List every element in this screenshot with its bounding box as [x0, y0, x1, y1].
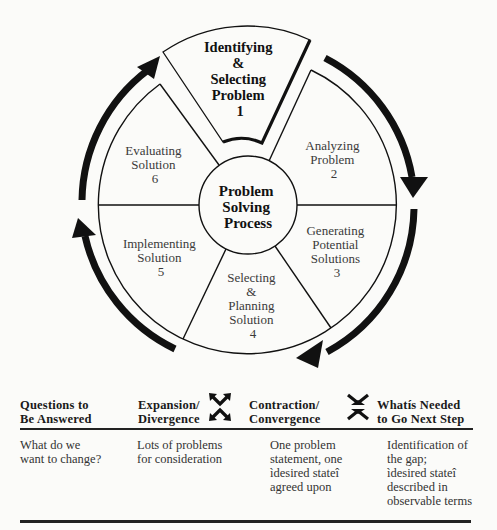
cell-line: for consideration [137, 452, 222, 466]
arrowhead-right-down [400, 177, 428, 198]
header-contraction: Contraction/ Convergence [249, 398, 321, 426]
header-line: Divergence [138, 412, 200, 426]
summary-table: Questions to Be Answered Expansion/ Dive… [20, 380, 473, 530]
arrowhead-left-up [72, 218, 96, 238]
cell-line: Lots of problems [137, 438, 222, 452]
header-line: Questions to [20, 398, 92, 412]
cell-line: ìdesired stateî [270, 466, 342, 480]
segment-6-label: Evaluating Solution 6 [125, 143, 185, 186]
cell-expansion: Lots of problems for consideration [137, 438, 222, 466]
center-label: Problem Solving Process [219, 183, 277, 231]
cell-line: One problem [270, 438, 342, 452]
cell-contraction: One problem statement, one ìdesired stat… [270, 438, 342, 494]
bottom-rule [20, 520, 471, 523]
divider-4-5 [183, 249, 226, 339]
segment-5-label: Implementing Solution 5 [123, 236, 199, 279]
cell-line: agreed upon [270, 480, 342, 494]
cell-line: described in [387, 480, 472, 494]
segment-4-label: Selecting & Planning Solution 4 [227, 270, 279, 341]
expand-arrows-icon [208, 392, 232, 422]
header-line: to Go Next Step [377, 412, 464, 426]
problem-solving-cycle-diagram: Identifying & Selecting Problem 1 Analyz… [0, 0, 497, 380]
cell-line: statement, one [270, 452, 342, 466]
header-divider [20, 428, 473, 430]
cell-line: the gap; [387, 452, 472, 466]
header-next-step: Whatís Needed to Go Next Step [377, 398, 464, 426]
cell-questions: What do we want to change? [20, 438, 101, 466]
contract-arrows-icon [346, 392, 370, 422]
header-line: Be Answered [20, 412, 92, 426]
cell-line: What do we [20, 438, 101, 452]
cell-line: Identification of [387, 438, 472, 452]
segment-3-label: Generating Potential Solutions 3 [306, 223, 367, 280]
header-expansion: Expansion/ Divergence [138, 398, 200, 426]
cell-line: want to change? [20, 452, 101, 466]
header-line: Expansion/ [138, 398, 200, 412]
header-line: Convergence [249, 412, 321, 426]
cell-line: observable terms [387, 494, 472, 508]
header-line: Contraction/ [249, 398, 321, 412]
cell-next-step: Identification of the gap; ìdesired stat… [387, 438, 472, 508]
cell-line: ìdesired stateî [387, 466, 472, 480]
segment-2-label: Analyzing Problem 2 [305, 138, 362, 181]
header-questions: Questions to Be Answered [20, 398, 92, 426]
header-line: Whatís Needed [377, 398, 464, 412]
